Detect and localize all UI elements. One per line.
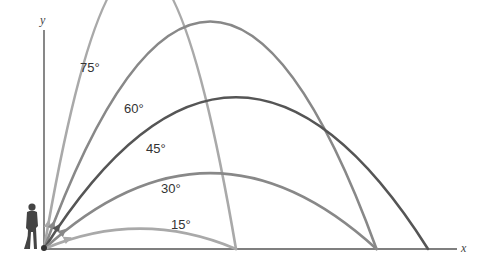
trajectory-30 [44, 173, 377, 249]
x-axis-label: x [460, 241, 467, 255]
label-60: 60° [124, 101, 144, 116]
label-45: 45° [146, 141, 166, 156]
y-axis-label: y [39, 13, 46, 27]
label-15: 15° [171, 217, 191, 232]
trajectory-diagram: y x 75° 60° 45° 30° 15° [0, 0, 492, 271]
trajectory-75 [44, 0, 236, 249]
trajectory-15 [44, 229, 236, 249]
trajectory-60 [44, 21, 377, 249]
label-75: 75° [80, 60, 100, 75]
trajectories [44, 0, 428, 249]
label-30: 30° [161, 181, 181, 196]
